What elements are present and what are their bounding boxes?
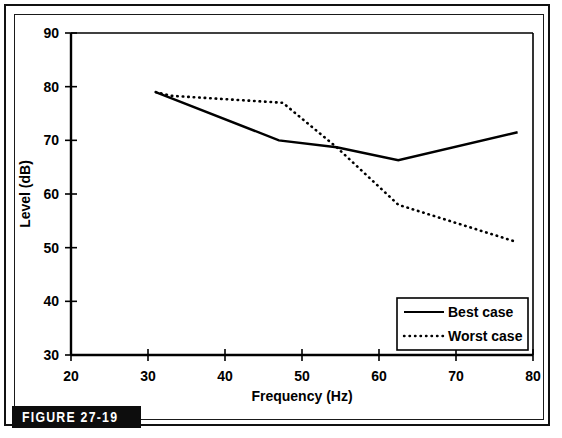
data-series-group	[156, 92, 518, 242]
x-tick-label: 50	[294, 368, 310, 384]
x-axis-tick-labels: 20304050607080	[63, 368, 541, 384]
figure-page: 30405060708090 20304050607080 Frequency …	[0, 0, 562, 438]
y-tick-label: 30	[43, 347, 59, 363]
x-axis-title: Frequency (Hz)	[251, 388, 352, 404]
figure-caption-tag: FIGURE 27-19	[12, 406, 141, 428]
x-tick-label: 30	[140, 368, 156, 384]
y-tick-label: 40	[43, 293, 59, 309]
y-axis-title: Level (dB)	[17, 160, 33, 228]
x-tick-label: 40	[217, 368, 233, 384]
x-tick-label: 80	[525, 368, 541, 384]
y-tick-label: 90	[43, 25, 59, 41]
y-tick-label: 70	[43, 132, 59, 148]
legend-label-best-case: Best case	[448, 304, 514, 320]
legend-label-worst-case: Worst case	[448, 328, 523, 344]
line-chart: 30405060708090 20304050607080 Frequency …	[0, 0, 562, 438]
y-tick-label: 50	[43, 240, 59, 256]
y-tick-label: 80	[43, 79, 59, 95]
series-line-best-case	[156, 92, 518, 160]
y-axis-tick-labels: 30405060708090	[43, 25, 59, 363]
chart-legend: Best case Worst case	[397, 298, 528, 350]
x-tick-label: 70	[448, 368, 464, 384]
x-tick-label: 60	[371, 368, 387, 384]
x-tick-label: 20	[63, 368, 79, 384]
figure-caption-text: FIGURE 27-19	[22, 409, 118, 425]
chart-container: 30405060708090 20304050607080 Frequency …	[0, 0, 562, 438]
y-tick-label: 60	[43, 186, 59, 202]
